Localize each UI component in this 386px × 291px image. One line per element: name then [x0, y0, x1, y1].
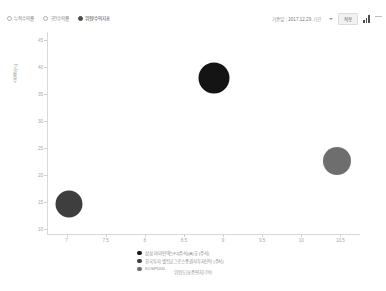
x-axis-line: [47, 234, 360, 235]
legend-label: 한국투자 벨트남그로스증권자투자신탁 (주식): [145, 258, 224, 264]
y-axis-line: [47, 32, 48, 234]
y-tick-mark: [44, 148, 47, 149]
data-point-bubble[interactable]: [198, 62, 229, 93]
radio-option-risk-return-metric[interactable]: 위험/수익지표: [78, 15, 110, 21]
y-tick-mark: [44, 67, 47, 68]
y-tick-label: 15: [38, 199, 43, 204]
x-tick-mark: [145, 234, 146, 237]
y-tick-label: 25: [38, 145, 43, 150]
y-tick-mark: [44, 40, 47, 41]
radio-dot-icon: [7, 16, 12, 21]
apply-button[interactable]: 적용: [338, 13, 358, 25]
y-tick-label: 30: [38, 118, 43, 123]
radio-option-cumulative-return[interactable]: 누적수익률: [7, 15, 34, 21]
reference-date-label: 기준일: [272, 16, 284, 22]
data-point-bubble[interactable]: [55, 190, 82, 217]
radio-label: 구간수익률: [50, 15, 70, 21]
radio-option-period-return[interactable]: 구간수익률: [43, 15, 70, 21]
x-tick-mark: [67, 234, 68, 237]
x-tick-mark: [106, 234, 107, 237]
x-tick-mark: [184, 234, 185, 237]
y-tick-mark: [44, 202, 47, 203]
y-tick-label: 35: [38, 91, 43, 96]
y-tick-label: 20: [38, 172, 43, 177]
view-mode-radio-group: 누적수익률 구간수익률 위험/수익지표: [7, 15, 110, 21]
y-tick-mark: [44, 229, 47, 230]
legend-label: 삼성 마이인덱스F1[주식](A)호 (주식): [145, 250, 209, 256]
radio-label: 누적수익률: [14, 15, 34, 21]
radio-dot-icon: [78, 16, 83, 21]
bar-chart-icon[interactable]: [363, 15, 370, 23]
reference-date-value: : 2017.12.29: [286, 17, 312, 22]
reference-date-field[interactable]: 기준일 : 2017.12.29 기간: [272, 16, 322, 22]
legend-swatch-icon: [137, 267, 142, 272]
y-tick-mark: [44, 94, 47, 95]
x-tick-label: 9.5: [259, 238, 265, 243]
x-tick-mark: [262, 234, 263, 237]
legend-item[interactable]: KOSPI200: [137, 266, 224, 271]
legend-swatch-icon: [137, 259, 142, 264]
scatter-plot: 4540353025201510 77.588.599.51010.5 수익률 …: [0, 28, 386, 238]
radio-dot-icon: [43, 16, 48, 21]
period-unit-label: 기간: [313, 16, 321, 22]
x-tick-mark: [301, 234, 302, 237]
legend-label: KOSPI200: [145, 266, 165, 271]
x-tick-label: 8: [144, 238, 147, 243]
legend-item[interactable]: 한국투자 벨트남그로스증권자투자신탁 (주식): [137, 258, 224, 264]
x-tick-label: 9: [222, 238, 225, 243]
risk-return-chart-page: 누적수익률 구간수익률 위험/수익지표 기준일 : 2017.12.29 기간 …: [0, 0, 386, 291]
x-tick-label: 10: [299, 238, 304, 243]
radio-label: 위험/수익지표: [85, 15, 110, 21]
y-tick-mark: [44, 175, 47, 176]
legend-item[interactable]: 삼성 마이인덱스F1[주식](A)호 (주식): [137, 250, 224, 256]
y-tick-label: 40: [38, 65, 43, 70]
y-tick-label: 45: [38, 38, 43, 43]
y-tick-mark: [44, 121, 47, 122]
x-tick-label: 7: [65, 238, 68, 243]
chart-legend: 삼성 마이인덱스F1[주식](A)호 (주식)한국투자 벨트남그로스증권자투자신…: [137, 250, 224, 271]
data-point-bubble[interactable]: [323, 147, 351, 175]
legend-swatch-icon: [137, 251, 142, 256]
toolbar-right-controls: 기준일 : 2017.12.29 기간 적용: [272, 13, 382, 25]
chevron-down-icon[interactable]: [329, 18, 333, 20]
x-tick-label: 7.5: [102, 238, 108, 243]
x-tick-label: 10.5: [336, 238, 345, 243]
y-tick-label: 10: [38, 226, 43, 231]
x-tick-label: 8.5: [181, 238, 187, 243]
more-menu-icon[interactable]: [375, 16, 382, 22]
x-tick-mark: [223, 234, 224, 237]
y-axis-title: 수익률 (%): [13, 64, 19, 83]
x-tick-mark: [340, 234, 341, 237]
